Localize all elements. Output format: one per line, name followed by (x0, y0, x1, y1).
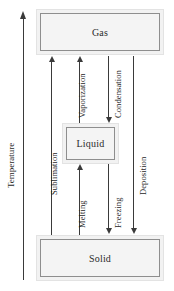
phase-box-liquid[interactable]: Liquid (62, 123, 119, 164)
phase-label-gas: Gas (92, 27, 108, 38)
phase-label-solid: Solid (89, 253, 111, 264)
phase-box-gas-inner: Gas (40, 13, 160, 51)
arrow-line-sublimation (51, 62, 52, 235)
phase-diagram: Temperature Gas Liquid Solid Sublimation… (0, 0, 174, 291)
temperature-axis-label: Temperature (6, 143, 16, 188)
phase-box-solid[interactable]: Solid (36, 235, 164, 281)
phase-box-liquid-inner: Liquid (66, 127, 115, 160)
arrow-up-icon-sublimation (49, 56, 55, 62)
transition-label-sublimation: Sublimation (49, 152, 59, 195)
phase-box-solid-inner: Solid (40, 239, 160, 277)
arrow-line-condensation (108, 56, 109, 117)
arrow-line-deposition (133, 56, 134, 228)
phase-box-gas[interactable]: Gas (36, 9, 164, 55)
temperature-axis-line (23, 18, 24, 280)
arrow-line-freezing (108, 164, 109, 228)
transition-label-melting: Melting (77, 200, 87, 228)
arrow-up-icon-vaporization (77, 56, 83, 62)
arrow-down-icon-freezing (106, 228, 112, 234)
transition-label-deposition: Deposition (138, 157, 148, 195)
transition-label-freezing: Freezing (113, 197, 123, 228)
transition-label-vaporization: Vaporization (77, 73, 87, 118)
transition-label-condensation: Condensation (113, 70, 123, 118)
phase-label-liquid: Liquid (77, 138, 105, 149)
arrow-up-icon-melting (77, 164, 83, 170)
arrow-down-icon-condensation (106, 117, 112, 123)
arrow-down-icon-deposition (131, 228, 137, 234)
